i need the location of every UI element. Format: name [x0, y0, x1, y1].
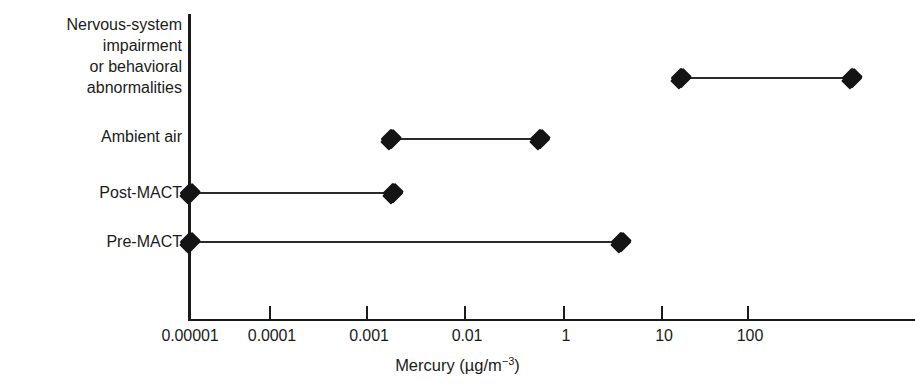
- x-axis-title-exponent: −3: [502, 355, 515, 367]
- range-marker-post-mact-low: [179, 182, 200, 203]
- range-marker-pre-mact-low: [179, 231, 200, 252]
- x-axis-tick-1: [269, 306, 271, 320]
- x-axis-tick-label-4: 1: [562, 327, 571, 345]
- range-marker-pre-mact-high: [610, 231, 631, 252]
- mercury-exposure-range-chart: Nervous-system impairment or behavioral …: [0, 0, 915, 392]
- x-axis-tick-5: [661, 306, 663, 320]
- range-line-nervous-system: [681, 77, 852, 79]
- category-label-nervous-system: Nervous-system impairment or behavioral …: [66, 14, 182, 98]
- range-marker-nervous-system-low: [670, 67, 691, 88]
- range-marker-ambient-air-high: [529, 128, 550, 149]
- x-axis-title-text: Mercury (µg/m: [395, 356, 502, 374]
- x-axis-tick-6: [747, 306, 749, 320]
- x-axis-tick-label-2: 0.001: [349, 327, 389, 345]
- category-label-ambient-air: Ambient air: [101, 126, 182, 147]
- category-label-post-mact: Post-MACT: [99, 182, 182, 203]
- x-axis-tick-2: [366, 306, 368, 320]
- x-axis-title-close: ): [514, 356, 520, 374]
- x-axis-tick-0: [188, 306, 190, 320]
- x-axis-tick-label-6: 100: [737, 327, 763, 345]
- x-axis-tick-4: [563, 306, 565, 320]
- x-axis-tick-label-3: 0.01: [452, 327, 483, 345]
- x-axis-tick-label-0: 0.00001: [161, 327, 218, 345]
- category-label-pre-mact: Pre-MACT: [106, 231, 182, 252]
- x-axis-line: [188, 319, 915, 321]
- range-marker-nervous-system-high: [841, 67, 862, 88]
- x-axis-title: Mercury (µg/m−3): [0, 356, 915, 375]
- range-line-pre-mact: [189, 241, 621, 243]
- range-line-post-mact: [189, 192, 393, 194]
- range-marker-ambient-air-low: [380, 128, 401, 149]
- range-line-ambient-air: [391, 138, 540, 140]
- x-axis-tick-3: [464, 306, 466, 320]
- y-axis-line: [188, 14, 191, 321]
- range-marker-post-mact-high: [382, 182, 403, 203]
- x-axis-tick-label-5: 10: [655, 327, 673, 345]
- x-axis-tick-label-1: 0.0001: [248, 327, 296, 345]
